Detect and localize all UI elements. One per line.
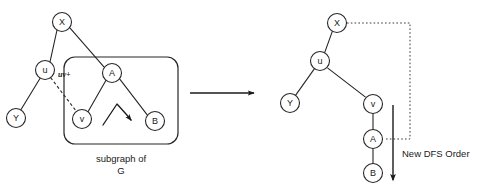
node-X-left: X [53, 13, 72, 32]
node-v-left: v [73, 110, 92, 129]
dotted-return-edge [347, 23, 410, 139]
diagram-canvas: uv+ X u Y A v [0, 0, 489, 193]
node-Y-left: Y [7, 109, 26, 128]
node-label: Y [287, 98, 293, 108]
node-A-left: A [103, 64, 122, 83]
edge-u-v-right [328, 68, 365, 97]
edge-X-u [50, 30, 57, 62]
dfs-order-label: New DFS Order [402, 148, 470, 159]
subgraph-caption-line-2: G [117, 165, 124, 176]
node-label: A [370, 134, 376, 144]
edge-A-v [88, 80, 106, 112]
node-label: X [59, 17, 65, 27]
edge-u-Y-right [296, 69, 315, 96]
edge-label-uv-plus: uv+ [58, 70, 71, 79]
node-v-right: v [364, 95, 383, 114]
edge-u-Y [21, 78, 40, 110]
subgraph-caption-line-1: subgraph of [96, 153, 147, 164]
node-Y-right: Y [281, 94, 300, 113]
node-label: B [152, 116, 158, 126]
node-u-left: u [36, 61, 55, 80]
node-A-right: A [364, 130, 383, 149]
after-diagram: New DFS Order X u Y v A [281, 14, 470, 183]
node-label: u [317, 56, 322, 66]
figure-root: uv+ X u Y A v [0, 0, 489, 193]
node-X-right: X [328, 14, 347, 33]
node-label: v [80, 114, 85, 124]
node-label: Y [13, 113, 19, 123]
edge-X-A [70, 28, 104, 67]
edge-X-u-right [324, 30, 332, 53]
node-B-right: B [364, 164, 383, 183]
insertion-direction-arrow [103, 104, 131, 125]
node-label: B [370, 168, 376, 178]
node-u-right: u [311, 52, 330, 71]
node-label: v [371, 99, 376, 109]
edge-A-B [120, 79, 148, 115]
node-label: A [109, 68, 115, 78]
node-B-left: B [146, 112, 165, 131]
before-diagram: uv+ X u Y A v [7, 13, 179, 177]
node-label: X [334, 18, 340, 28]
node-label: u [42, 65, 47, 75]
